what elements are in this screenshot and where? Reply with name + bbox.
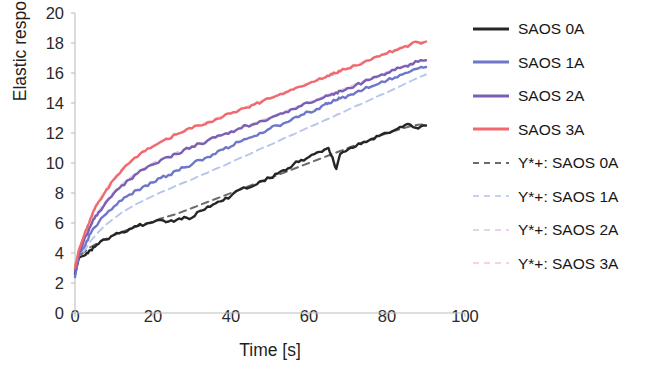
legend-item-y-saos-2a[interactable]: Y*+: SAOS 2A bbox=[472, 213, 656, 247]
legend-label: SAOS 3A bbox=[518, 122, 584, 138]
legend-item-saos-1a[interactable]: SAOS 1A bbox=[472, 46, 656, 80]
legend-swatch-icon bbox=[472, 189, 510, 203]
legend-swatch-icon bbox=[472, 55, 510, 69]
legend-swatch-icon bbox=[472, 256, 510, 270]
legend-item-saos-3a[interactable]: SAOS 3A bbox=[472, 113, 656, 147]
legend-item-saos-0a[interactable]: SAOS 0A bbox=[472, 12, 656, 46]
legend-label: Y*+: SAOS 0A bbox=[518, 155, 618, 171]
series-line-saos-3a bbox=[75, 42, 426, 269]
legend-label: Y*+: SAOS 3A bbox=[518, 256, 618, 272]
legend-swatch-icon bbox=[472, 89, 510, 103]
legend-swatch-icon bbox=[472, 22, 510, 36]
legend-label: Y*+: SAOS 2A bbox=[518, 222, 618, 238]
legend-swatch-icon bbox=[472, 122, 510, 136]
chart-container: Elastic response [Pa] Time [s] 024681012… bbox=[0, 0, 656, 374]
legend-label: Y*+: SAOS 1A bbox=[518, 189, 618, 205]
legend-label: SAOS 0A bbox=[518, 21, 584, 37]
legend-label: SAOS 2A bbox=[518, 88, 584, 104]
chart-legend: SAOS 0ASAOS 1ASAOS 2ASAOS 3AY*+: SAOS 0A… bbox=[472, 12, 656, 280]
series-line-saos-0a bbox=[75, 124, 426, 274]
legend-item-y-saos-1a[interactable]: Y*+: SAOS 1A bbox=[472, 180, 656, 214]
legend-item-y-saos-0a[interactable]: Y*+: SAOS 0A bbox=[472, 146, 656, 180]
legend-item-y-saos-3a[interactable]: Y*+: SAOS 3A bbox=[472, 247, 656, 281]
legend-swatch-icon bbox=[472, 156, 510, 170]
legend-swatch-icon bbox=[472, 223, 510, 237]
legend-item-saos-2a[interactable]: SAOS 2A bbox=[472, 79, 656, 113]
legend-label: SAOS 1A bbox=[518, 55, 584, 71]
